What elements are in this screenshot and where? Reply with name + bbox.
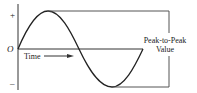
sine-wave-diagram: + O – Time Peak-to-Peak Value: [0, 0, 197, 93]
time-label: Time: [24, 52, 41, 61]
value-label: Value: [156, 45, 175, 54]
time-arrow-head: [67, 54, 74, 58]
negative-label: –: [9, 78, 15, 88]
origin-label: O: [7, 44, 14, 54]
peak-to-peak-label: Peak-to-Peak: [144, 36, 187, 45]
positive-label: +: [10, 10, 15, 20]
